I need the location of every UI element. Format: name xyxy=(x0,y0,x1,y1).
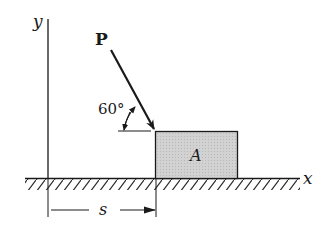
x-axis-label: x xyxy=(303,168,313,188)
y-axis-label: y xyxy=(32,11,43,31)
angle-arc-lower xyxy=(124,112,130,130)
block-a: A xyxy=(156,132,238,179)
block-label: A xyxy=(188,146,202,165)
angle-label: 60° xyxy=(98,100,125,118)
y-axis: y xyxy=(32,11,48,178)
dimension-label: s xyxy=(99,200,107,219)
diagram-canvas: y x A P 60° s xyxy=(0,0,331,232)
force-label: P xyxy=(95,29,108,49)
ground xyxy=(25,179,300,191)
angle-indicator: 60° xyxy=(98,100,151,131)
